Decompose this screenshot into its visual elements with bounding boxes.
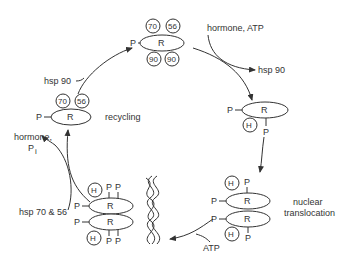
hormone-label: H [228,230,234,239]
nuclear-label: nuclear [293,197,323,207]
dna-bound-receptor-pair: H P P P R P R P P H [74,182,133,246]
phosphate-label: P [263,127,269,137]
hormone-pi-label: hormone, [14,132,52,142]
dna-helix-icon [146,176,160,244]
receptor-label: R [107,201,114,211]
hsp90-label: 90 [167,55,176,64]
pi-subscript: i [35,147,37,156]
phosphate-label: P [130,38,136,48]
hsp90-label: 90 [149,55,158,64]
phosphate-label: P [115,182,121,192]
hsp56-label: 56 [77,97,86,106]
receptor-label: R [107,217,114,227]
hsp70-label: 70 [58,97,67,106]
hormone-label: H [246,121,252,130]
atp-label: ATP [203,243,220,253]
phosphate-label: P [74,217,80,227]
right-receptor-complex: P R H P [227,102,288,137]
phosphate-label: P [227,105,233,115]
nuclear-receptor-pair: H P P R P R P H [211,176,270,243]
receptor-label: R [158,38,165,48]
receptor-label: R [67,112,74,122]
hormone-label: H [90,234,96,243]
recycling-receptor-complex: P R 70 56 [36,94,91,125]
phosphate-label: P [106,236,112,246]
hormone-atp-label: hormone, ATP [207,23,264,33]
phosphate-label: P [106,182,112,192]
steroid-receptor-cycle-diagram: P R 70 56 90 90 hormone, ATP hsp 90 P R … [0,0,345,264]
receptor-label: R [261,105,268,115]
hsp70-56-label: hsp 70 & 56 [19,207,67,217]
hormone-label: H [91,186,97,195]
phosphate-label: P [74,201,80,211]
phosphate-label: P [211,196,217,206]
hsp90-input-label: hsp 90 [44,76,71,86]
receptor-label: R [244,214,251,224]
receptor-label: R [244,196,251,206]
phosphate-label: P [115,236,121,246]
top-receptor-complex: P R 70 56 90 90 [130,19,184,66]
phosphate-label: P [211,214,217,224]
phosphate-label: P [36,112,42,122]
hsp56-label: 56 [168,22,177,31]
pi-label: P [28,143,34,153]
phosphate-label: P [245,233,251,243]
phosphate-label: P [244,177,250,187]
hsp90-release-label: hsp 90 [258,65,285,75]
recycling-label: recycling [105,112,141,122]
hsp70-label: 70 [148,22,157,31]
hormone-label: H [228,179,234,188]
translocation-label: translocation [284,208,335,218]
